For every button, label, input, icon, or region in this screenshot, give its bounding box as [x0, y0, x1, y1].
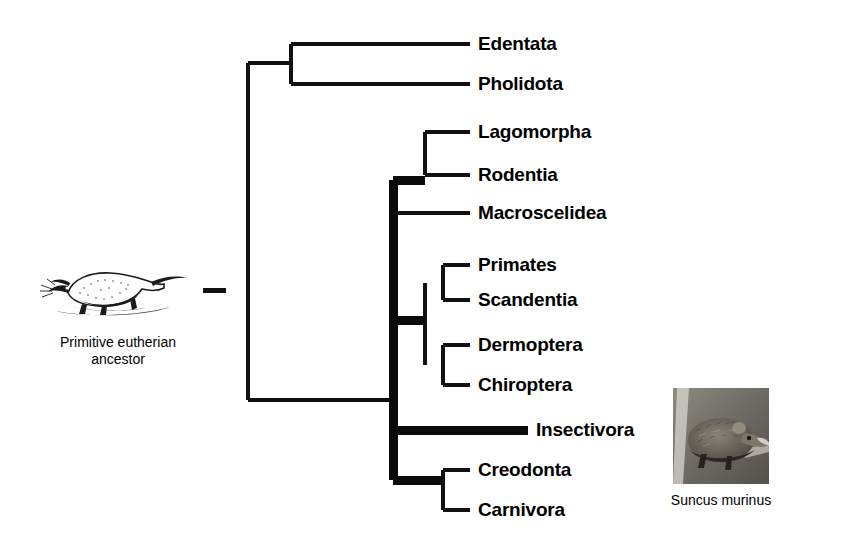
branch-chiropteran-node: [441, 345, 445, 385]
taxon-label-insectivora: Insectivora: [536, 420, 634, 439]
terminal-branch-creodonta: [443, 468, 470, 472]
branch-ferae-stem: [393, 476, 443, 485]
branch-glires-stem: [393, 176, 425, 185]
taxon-label-scandentia: Scandentia: [478, 290, 577, 309]
terminal-branch-chiroptera: [443, 383, 470, 387]
branch-euarchonta-stem: [393, 316, 425, 325]
shrew-illustration-icon: [38, 255, 193, 323]
photo-caption: Suncus murinus: [653, 492, 789, 509]
terminal-branch-lagomorpha: [425, 130, 470, 134]
shrew-photograph-icon: [673, 388, 769, 484]
taxon-label-creodonta: Creodonta: [478, 460, 571, 479]
taxon-label-chiroptera: Chiroptera: [478, 375, 572, 394]
ancestor-caption-line1: Primitive eutherian: [18, 334, 218, 351]
terminal-branch-insectivora: [393, 426, 528, 435]
taxon-label-primates: Primates: [478, 255, 557, 274]
taxon-label-macroscelidea: Macroscelidea: [478, 203, 606, 222]
phylogenetic-tree-figure: Primitive eutherian ancestor: [0, 0, 848, 543]
taxon-label-carnivora: Carnivora: [478, 500, 565, 519]
terminal-branch-rodentia: [425, 173, 470, 177]
ancestor-branch-dash-icon: [203, 288, 226, 293]
branch-glires-node: [423, 132, 427, 175]
terminal-branch-scandentia: [443, 298, 470, 302]
branch-root-stem: [248, 398, 393, 402]
terminal-branch-edentata: [291, 42, 470, 46]
taxon-label-rodentia: Rodentia: [478, 165, 558, 184]
branch-root-trunk: [246, 63, 250, 400]
taxon-label-lagomorpha: Lagomorpha: [478, 122, 591, 141]
ancestor-caption-line2: ancestor: [18, 351, 218, 368]
taxon-label-pholidota: Pholidota: [478, 74, 563, 93]
terminal-branch-carnivora: [443, 508, 470, 512]
taxon-label-edentata: Edentata: [478, 34, 557, 53]
branch-primatomorpha: [441, 265, 445, 300]
taxon-label-dermoptera: Dermoptera: [478, 335, 583, 354]
terminal-branch-dermoptera: [443, 343, 470, 347]
terminal-branch-primates: [443, 263, 470, 267]
terminal-branch-pholidota: [291, 82, 470, 86]
terminal-branch-macroscelidea: [393, 211, 470, 215]
branch-main-trunk: [389, 180, 398, 480]
branch-xenarthra-stem: [248, 61, 291, 65]
ancestor-caption: Primitive eutherian ancestor: [18, 334, 218, 368]
